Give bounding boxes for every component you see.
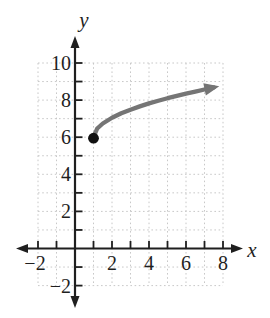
y-tick-label: 6	[61, 126, 71, 148]
y-tick-label: 8	[61, 89, 71, 111]
function-curve	[94, 88, 214, 138]
x-tick-label: 4	[144, 252, 154, 274]
graph-canvas: −22468108642−2xy	[0, 0, 270, 318]
coordinate-plane-figure: −22468108642−2xy	[0, 0, 270, 318]
y-tick-label: −2	[50, 275, 71, 297]
y-tick-label: 2	[61, 200, 71, 222]
x-tick-label: 2	[107, 252, 117, 274]
y-axis-bottom-arrow-icon	[71, 296, 80, 308]
x-axis-right-arrow-icon	[231, 244, 243, 253]
closed-endpoint-dot	[88, 133, 99, 144]
y-axis-top-arrow-icon	[71, 36, 80, 48]
y-axis-label: y	[77, 8, 89, 32]
y-tick-label: 10	[51, 52, 71, 74]
y-tick-label: 4	[61, 163, 71, 185]
x-tick-label: 6	[181, 252, 191, 274]
x-tick-label: 8	[218, 252, 228, 274]
x-axis-label: x	[246, 238, 257, 262]
x-tick-label: −2	[24, 252, 45, 274]
